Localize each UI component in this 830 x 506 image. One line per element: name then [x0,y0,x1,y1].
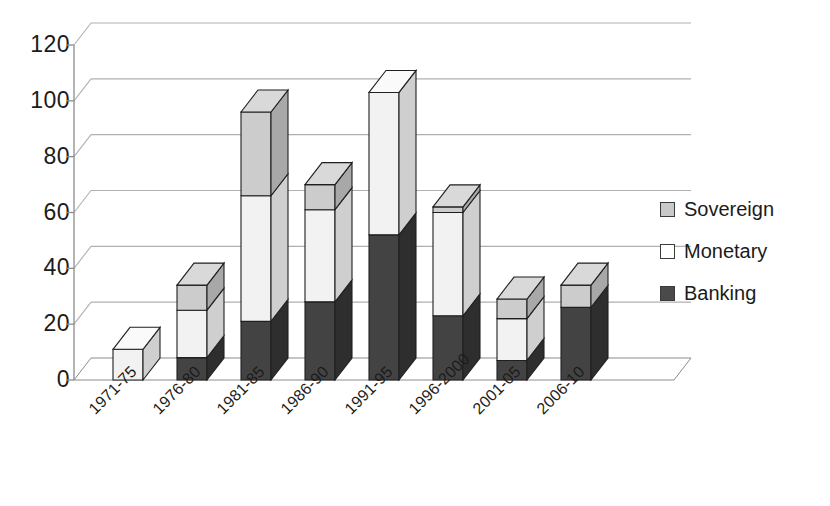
bar-segment-front-6-sovereign [497,299,527,319]
bar-segment-front-2-sovereign [241,112,271,196]
bar-segment-side-2-monetary [271,174,288,322]
legend-swatch-monetary [660,244,675,259]
gridline-connector-120 [74,23,91,45]
bar-segment-front-1-sovereign [177,285,207,310]
bar-segment-front-6-monetary [497,319,527,361]
bar-segment-front-5-monetary [433,213,463,316]
legend-item-label: Banking [684,283,756,303]
bar-segment-front-4-monetary [369,92,399,234]
gridline-connector-20 [74,302,91,324]
bar-segment-front-3-monetary [305,210,335,302]
legend-item-label: Sovereign [684,199,774,219]
bar-segment-front-7-sovereign [561,285,591,307]
bar-segment-side-4-monetary [399,70,416,234]
gridline-connector-100 [74,79,91,101]
legend-swatch-sovereign [660,202,675,217]
gridline-connector-60 [74,191,91,213]
bar-segment-front-5-sovereign [433,207,463,213]
legend-item-banking[interactable]: Banking [660,272,825,314]
chart-legend: SovereignMonetaryBanking [660,188,825,314]
legend-item-label: Monetary [684,241,767,261]
chart-container: 020406080100120 1971-751976-801981-85198… [0,0,830,506]
bar-segment-front-2-monetary [241,196,271,322]
gridline-connector-40 [74,246,91,268]
bar-segment-side-4-banking [399,213,416,380]
bar-segment-front-3-sovereign [305,185,335,210]
legend-swatch-banking [660,286,675,301]
bar-segment-front-1-monetary [177,310,207,357]
legend-item-monetary[interactable]: Monetary [660,230,825,272]
legend-item-sovereign[interactable]: Sovereign [660,188,825,230]
bar-segment-front-4-banking [369,235,399,380]
gridline-connector-80 [74,135,91,157]
